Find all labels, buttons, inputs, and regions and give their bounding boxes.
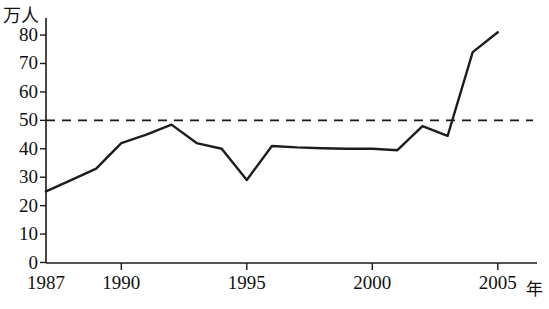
y-tick-label: 30 — [4, 167, 38, 186]
caption-strip — [0, 293, 549, 309]
y-tick-label: 40 — [4, 139, 38, 158]
axis-group — [46, 18, 537, 263]
x-tick-label: 1987 — [16, 273, 76, 292]
y-tick-marks — [40, 35, 46, 262]
y-tick-label: 70 — [4, 53, 38, 72]
x-tick-label: 1990 — [91, 273, 151, 292]
data-series-line — [46, 32, 498, 191]
y-tick-label: 80 — [4, 25, 38, 44]
y-tick-label: 60 — [4, 82, 38, 101]
y-tick-label: 50 — [4, 110, 38, 129]
y-tick-label: 10 — [4, 224, 38, 243]
chart-plot-area — [0, 0, 549, 309]
x-tick-label: 2005 — [468, 273, 528, 292]
x-tick-label: 2000 — [342, 273, 402, 292]
x-tick-marks — [121, 263, 498, 270]
y-tick-label: 20 — [4, 196, 38, 215]
x-tick-label: 1995 — [217, 273, 277, 292]
chart-container: 万人 01020304050607080 1987199019952000200… — [0, 0, 549, 309]
y-tick-label: 0 — [4, 253, 38, 272]
